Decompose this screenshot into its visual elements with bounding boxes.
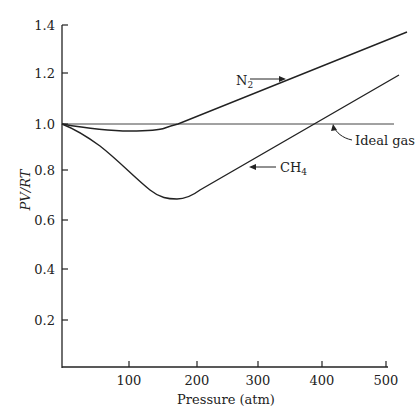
- n2-annotation: N2: [236, 73, 286, 90]
- n2-curve: [62, 32, 407, 131]
- compressibility-chart: 1.4 1.2 1.0 0.8 0.6 0.4 0.2 100 200 300 …: [0, 0, 416, 412]
- arrow-icon: [331, 124, 337, 131]
- y-tick-label: 0.2: [34, 313, 55, 328]
- y-tick-label: 0.6: [34, 213, 55, 228]
- ch4-curve: [62, 75, 399, 199]
- ch4-label: CH4: [280, 160, 307, 177]
- x-tick-label: 300: [246, 373, 271, 388]
- y-tick-label: 0.8: [34, 163, 55, 178]
- y-tick-label: 1.4: [34, 18, 55, 33]
- ideal-gas-annotation: Ideal gas: [331, 124, 415, 148]
- x-tick-label: 100: [117, 373, 142, 388]
- arrow-icon: [249, 164, 256, 170]
- y-tick-label: 1.0: [34, 117, 55, 132]
- x-tick-label: 200: [185, 373, 210, 388]
- y-ticks: [62, 25, 68, 320]
- n2-label: N2: [236, 73, 253, 90]
- x-tick-labels: 100 200 300 400 500: [117, 373, 399, 388]
- ch4-annotation: CH4: [249, 160, 307, 177]
- x-tick-label: 500: [374, 373, 399, 388]
- ideal-gas-label: Ideal gas: [355, 133, 415, 148]
- y-tick-labels: 1.4 1.2 1.0 0.8 0.6 0.4 0.2: [34, 18, 55, 328]
- y-tick-label: 0.4: [34, 262, 55, 277]
- y-axis-label: PV/RT: [18, 168, 33, 211]
- x-axis-label: Pressure (atm): [177, 392, 275, 407]
- y-tick-label: 1.2: [34, 66, 55, 81]
- x-tick-label: 400: [310, 373, 335, 388]
- x-ticks: [129, 361, 386, 367]
